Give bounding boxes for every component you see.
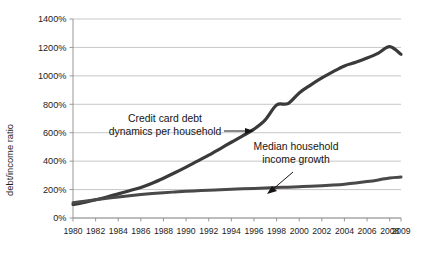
y-axis-title: debt/income ratio — [4, 124, 15, 196]
x-tick-label: 1980 — [63, 226, 82, 236]
y-tick-label: 600% — [43, 128, 67, 138]
annotation-line-2: dynamics per household — [109, 126, 222, 137]
x-tick-label: 1982 — [86, 226, 105, 236]
y-tick-label: 400% — [43, 156, 67, 166]
x-tick-label: 2006 — [358, 226, 377, 236]
y-tick-label: 200% — [43, 185, 67, 195]
annotation-line-1: Median household — [254, 141, 339, 152]
y-tick-label: 0% — [53, 213, 66, 223]
x-tick-label: 1988 — [154, 226, 173, 236]
x-tick-label: 1990 — [177, 226, 196, 236]
x-tick-label: 1994 — [222, 226, 241, 236]
y-tick-label: 1000% — [38, 71, 67, 81]
x-tick-labels: 1980198219841986198819901992199419961998… — [63, 226, 410, 236]
annotation-line-1: Credit card debt — [128, 113, 202, 124]
y-tick-label: 800% — [43, 100, 67, 110]
x-tick-label: 1986 — [131, 226, 150, 236]
chart-container: 0%200%400%600%800%1000%1200%1400% 198019… — [0, 0, 428, 255]
x-tick-label: 1984 — [109, 226, 128, 236]
y-tick-label: 1400% — [38, 14, 67, 24]
y-tick-label: 1200% — [38, 43, 67, 53]
x-tick-label: 2004 — [335, 226, 354, 236]
x-tick-label: 2002 — [312, 226, 331, 236]
x-tick-label: 1992 — [199, 226, 218, 236]
line-chart: 0%200%400%600%800%1000%1200%1400% 198019… — [0, 0, 428, 255]
x-tick-label: 1998 — [267, 226, 286, 236]
x-tick-label: 1996 — [244, 226, 263, 236]
x-tick-label: 2009 — [391, 226, 410, 236]
annotation-line-2: income growth — [262, 154, 330, 165]
x-tick-label: 2000 — [290, 226, 309, 236]
